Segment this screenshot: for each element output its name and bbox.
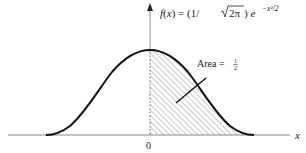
origin-label: 0 xyxy=(146,140,151,151)
sqrt-argument: 2π xyxy=(229,7,241,19)
exponent-label: −x²/2 xyxy=(262,4,279,13)
area-fraction-denominator: 2 xyxy=(234,65,237,71)
area-fraction-numerator: 1 xyxy=(234,58,237,64)
function-label: f(x) = (1/ xyxy=(160,7,200,20)
y-axis-arrow-icon xyxy=(147,3,153,11)
normal-distribution-diagram: f(x) = (1/ 2π ) e −x²/2 Area = 1 2 x 0 xyxy=(0,0,306,153)
area-label: Area = xyxy=(197,58,225,69)
sqrt-group: 2π xyxy=(221,6,244,19)
function-label-tail: ) e xyxy=(244,7,255,20)
x-axis-label: x xyxy=(294,129,300,141)
